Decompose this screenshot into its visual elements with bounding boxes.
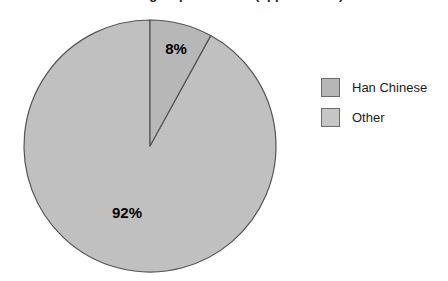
legend-swatch-icon <box>321 108 340 127</box>
legend-label: Han Chinese <box>352 81 427 94</box>
chart-legend: Han Chinese Other <box>321 72 445 132</box>
pie-label-other: 8% <box>165 40 187 57</box>
legend-item-other[interactable]: Other <box>321 102 445 132</box>
legend-item-han-chinese[interactable]: Han Chinese <box>321 72 445 102</box>
legend-swatch-icon <box>321 78 340 97</box>
pie-chart-canvas: 8% 92% <box>0 0 448 281</box>
legend-label: Other <box>352 111 385 124</box>
pie-chart-figure: Ethnic groups in China (approximate) 8% … <box>0 0 448 281</box>
pie-label-han-chinese: 92% <box>112 204 142 221</box>
